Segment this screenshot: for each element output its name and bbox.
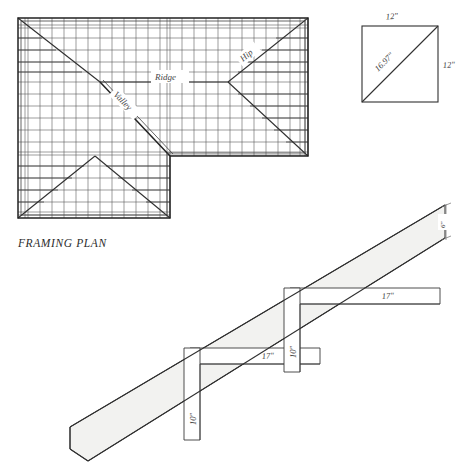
square-diagonal-dimension-group: 16.97": [370, 43, 403, 76]
valley-label-group: Valley: [109, 87, 142, 121]
upper-rise-label-group: 10": [288, 338, 299, 360]
rafter-end-depth-dimension: 6": [439, 222, 447, 229]
square-detail-group: 12" 12" 16.97": [362, 11, 456, 102]
lower-rise-label-group: 10": [188, 405, 199, 427]
architectural-drawing-svg: Ridge Hip Valley FRAMING PLAN 12" 12" 16…: [0, 0, 457, 466]
upper-run-dimension: 17": [381, 290, 394, 301]
rafter-bottom-edge: [88, 238, 445, 461]
drawing-canvas: Ridge Hip Valley FRAMING PLAN 12" 12" 16…: [0, 0, 457, 466]
upper-rise-dimension: 10": [288, 346, 298, 359]
framing-square-lower-blade: [190, 348, 320, 364]
rafter-end-depth-label-group: 6": [438, 214, 448, 230]
framing-plan-jack-rafters-lower-left: [18, 166, 170, 202]
hip-label-group: Hip: [235, 42, 261, 67]
square-right-dimension: 12": [442, 59, 455, 70]
framing-plan-caption: FRAMING PLAN: [17, 237, 107, 249]
framing-plan-group: Ridge Hip Valley FRAMING PLAN: [17, 18, 308, 249]
framing-square-upper-blade: [290, 288, 440, 304]
rafter-layout-group: 17" 10" 17" 10": [70, 203, 451, 461]
rafter-top-edge: [70, 205, 445, 427]
ridge-label: Ridge: [154, 72, 176, 82]
square-top-dimension: 12": [385, 11, 398, 22]
rafter-board: [70, 205, 445, 461]
upper-run-label-group: 17": [379, 290, 402, 303]
lower-rise-dimension: 10": [188, 413, 198, 426]
